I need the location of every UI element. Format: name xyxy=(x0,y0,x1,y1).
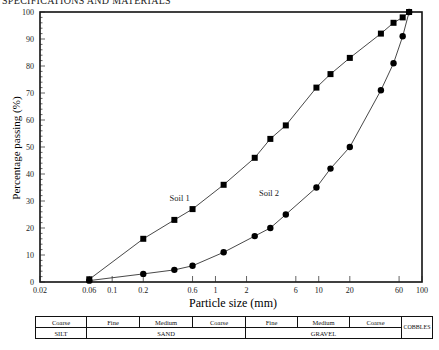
y-tick-label: 30 xyxy=(26,197,34,206)
square-marker xyxy=(267,136,273,142)
square-marker xyxy=(347,55,353,61)
curve-label: Soil 1 xyxy=(170,193,190,203)
square-marker xyxy=(252,155,258,161)
x-tick-label: 6 xyxy=(294,286,298,295)
curve-labels: Soil 1Soil 2 xyxy=(170,188,279,203)
x-tick-label: 0.06 xyxy=(82,286,96,295)
sand-cell: SAND xyxy=(87,328,246,339)
circle-marker xyxy=(252,233,258,239)
x-tick-label: 60 xyxy=(395,286,403,295)
circle-marker xyxy=(399,33,405,39)
data-series xyxy=(86,9,412,284)
curve-label: Soil 2 xyxy=(259,188,279,198)
x-tick-label: 0.6 xyxy=(188,286,198,295)
square-marker xyxy=(140,236,146,242)
gravel-cell: GRAVEL xyxy=(246,328,402,339)
y-tick-label: 40 xyxy=(26,170,34,179)
circle-marker xyxy=(283,211,289,217)
circle-marker xyxy=(406,9,412,15)
x-axis-title: Particle size (mm) xyxy=(189,296,277,310)
y-tick-label: 20 xyxy=(26,224,34,233)
circle-marker xyxy=(171,267,177,273)
circle-marker xyxy=(327,165,333,171)
circle-marker xyxy=(267,225,273,231)
sand-fine: Fine xyxy=(87,317,140,328)
square-marker xyxy=(171,217,177,223)
gravel-medium: Medium xyxy=(298,317,350,328)
square-marker xyxy=(283,122,289,128)
cobbles-cell: COBBLES xyxy=(402,317,433,339)
square-marker xyxy=(313,85,319,91)
y-tick-label: 60 xyxy=(26,116,34,125)
plot-frame xyxy=(40,12,422,282)
x-tick-label: 10 xyxy=(315,286,323,295)
square-marker xyxy=(378,31,384,37)
sand-medium: Medium xyxy=(140,317,193,328)
square-marker xyxy=(190,206,196,212)
y-tick-label: 100 xyxy=(22,8,34,17)
circle-marker xyxy=(220,249,226,255)
square-marker xyxy=(391,20,397,26)
y-axis-title: Percentage passing (%) xyxy=(10,96,23,200)
y-tick-label: 50 xyxy=(26,143,34,152)
square-marker xyxy=(327,71,333,77)
circle-marker xyxy=(378,87,384,93)
y-tick-label: 90 xyxy=(26,35,34,44)
x-tick-label: 0.1 xyxy=(107,286,117,295)
silt-cell: SILT xyxy=(36,328,87,339)
silt-coarse: Coarse xyxy=(36,317,87,328)
sand-coarse: Coarse xyxy=(193,317,246,328)
x-tick-label: 20 xyxy=(346,286,354,295)
circle-marker xyxy=(140,271,146,277)
gravel-fine: Fine xyxy=(246,317,298,328)
particle-size-chart: 0102030405060708090100 0.020.060.10.20.6… xyxy=(0,0,439,315)
x-tick-label: 0.02 xyxy=(33,286,47,295)
circle-marker xyxy=(86,277,92,283)
x-tick-label: 2 xyxy=(245,286,249,295)
y-axis-ticks: 0102030405060708090100 xyxy=(22,8,45,287)
circle-marker xyxy=(189,263,195,269)
y-tick-label: 80 xyxy=(26,62,34,71)
soil-1-series xyxy=(86,9,412,282)
y-tick-label: 70 xyxy=(26,89,34,98)
circle-marker xyxy=(347,144,353,150)
square-marker xyxy=(221,182,227,188)
x-tick-label: 1 xyxy=(213,286,217,295)
gravel-coarse: Coarse xyxy=(350,317,402,328)
x-tick-label: 0.2 xyxy=(138,286,148,295)
square-marker xyxy=(400,14,406,20)
y-tick-label: 10 xyxy=(26,251,34,260)
soil-2-series xyxy=(86,9,412,284)
circle-marker xyxy=(313,184,319,190)
soil-classification-table: Coarse Fine Medium Coarse Fine Medium Co… xyxy=(35,316,433,339)
circle-marker xyxy=(390,60,396,66)
x-tick-label: 100 xyxy=(416,286,428,295)
